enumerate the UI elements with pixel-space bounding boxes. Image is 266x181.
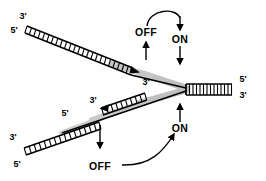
- diagram-canvas: 3' 5' 3' 3' 5' 5' 3' 5' 3' OFF ON ON OFF: [0, 0, 266, 181]
- label-lower-mid-5prime: 5': [61, 108, 68, 118]
- label-lower-left-5prime: 5': [13, 159, 20, 169]
- label-lower-left-3prime: 3': [9, 132, 16, 142]
- label-upper-left-3prime: 3': [19, 11, 26, 21]
- canvas-background: [0, 0, 266, 181]
- label-lower-off: OFF: [89, 160, 111, 172]
- label-right-3prime: 3': [239, 90, 246, 100]
- label-right-5prime: 5': [239, 74, 246, 84]
- label-upper-off: OFF: [135, 26, 157, 38]
- label-upper-left-5prime: 5': [10, 25, 17, 35]
- label-upper-on: ON: [172, 33, 188, 45]
- label-lower-on: ON: [172, 122, 188, 134]
- label-upper-fragment-3prime: 3': [142, 77, 149, 87]
- dna-replication-fork-diagram: 3' 5' 3' 3' 5' 5' 3' 5' 3' OFF ON ON OFF: [0, 0, 266, 181]
- label-lower-fragment-3prime: 3': [89, 95, 96, 105]
